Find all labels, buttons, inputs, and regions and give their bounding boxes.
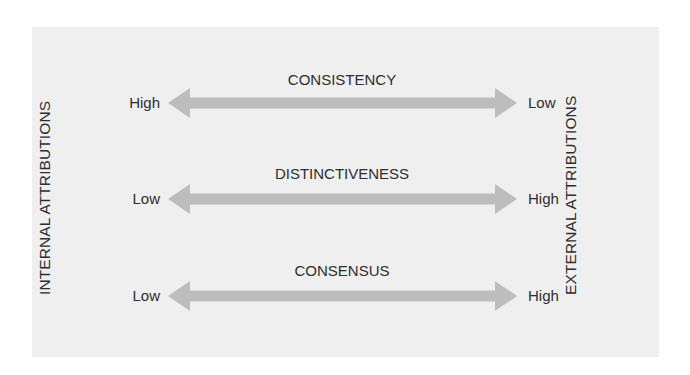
right-end-label-distinctiveness: High [528,190,588,207]
left-end-label-consensus: Low [100,287,160,304]
double-arrow-icon-consensus [168,281,517,311]
right-end-label-consistency: Low [528,94,588,111]
double-arrows [0,0,690,375]
row-title-consensus: CONSENSUS [242,262,442,279]
row-title-distinctiveness: DISTINCTIVENESS [242,165,442,182]
left-end-label-distinctiveness: Low [100,190,160,207]
double-arrow-icon-consistency [168,88,517,118]
row-title-consistency: CONSISTENCY [242,71,442,88]
left-end-label-consistency: High [100,94,160,111]
double-arrow-icon-distinctiveness [168,184,517,214]
right-end-label-consensus: High [528,287,588,304]
